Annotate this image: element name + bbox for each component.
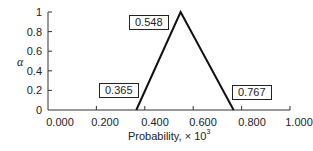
x-tick: 0.000: [46, 116, 74, 128]
y-tick: 0.8: [22, 26, 42, 38]
y-tick: 0.4: [22, 65, 42, 77]
y-tick: 1: [22, 6, 42, 18]
x-tick: 0.600: [189, 116, 217, 128]
annotation-upper: 0.767: [232, 85, 272, 100]
y-axis-label: α: [17, 55, 23, 70]
annotation-lower: 0.365: [99, 83, 139, 98]
x-axis-label: Probability, × 103: [128, 130, 210, 142]
x-tick: 1.000: [285, 116, 313, 128]
y-tick: 0: [22, 104, 42, 116]
y-tick: 0.6: [22, 45, 42, 57]
x-tick: 0.800: [238, 116, 266, 128]
y-tick: 0.2: [22, 84, 42, 96]
x-tick: 0.200: [91, 116, 119, 128]
annotation-peak: 0.548: [129, 15, 169, 30]
x-tick: 0.400: [141, 116, 169, 128]
